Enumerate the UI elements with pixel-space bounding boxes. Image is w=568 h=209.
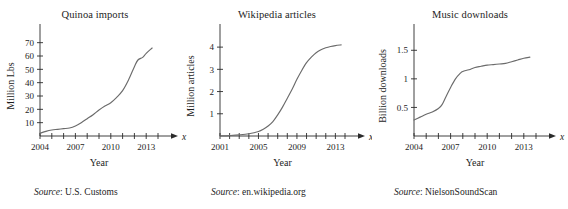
svg-text:70: 70	[25, 38, 35, 48]
chart-source: Source: en.wikipedia.org	[211, 187, 306, 197]
svg-text:1: 1	[404, 74, 409, 84]
svg-text:2013: 2013	[326, 142, 345, 152]
chart-panel-wikipedia-articles: Wikipedia articles xy2001200520092013123…	[182, 0, 372, 209]
source-value: en.wikipedia.org	[242, 187, 306, 197]
chart-title: Music downloads	[372, 9, 568, 20]
chart-title: Wikipedia articles	[182, 9, 372, 20]
chart-panel-music-downloads: Music downloads xy20042007201020130.511.…	[372, 0, 568, 209]
data-curve	[40, 48, 152, 133]
svg-text:10: 10	[25, 118, 35, 128]
svg-text:Million Lbs: Million Lbs	[5, 62, 16, 110]
svg-text:Year: Year	[90, 157, 109, 168]
svg-text:2: 2	[210, 87, 215, 97]
svg-text:0.5: 0.5	[397, 103, 409, 113]
svg-text:20: 20	[25, 105, 35, 115]
svg-text:40: 40	[25, 78, 35, 88]
data-curve	[220, 45, 341, 136]
svg-text:2005: 2005	[249, 142, 268, 152]
svg-text:Year: Year	[466, 157, 485, 168]
svg-text:Billion downloads: Billion downloads	[377, 49, 388, 123]
chart-panel-quinoa-imports: Quinoa imports xy20042007201020131020304…	[0, 0, 190, 209]
three-chart-figure: Quinoa imports xy20042007201020131020304…	[0, 0, 568, 209]
chart-title: Quinoa imports	[0, 9, 190, 20]
svg-text:3: 3	[210, 65, 215, 75]
chart-plot-area: xy20012005200920131234YearMillion articl…	[182, 24, 372, 174]
source-value: NielsonSoundScan	[425, 187, 497, 197]
svg-text:1.5: 1.5	[397, 45, 409, 55]
svg-text:2013: 2013	[515, 142, 534, 152]
svg-text:30: 30	[25, 91, 35, 101]
svg-text:Year: Year	[273, 157, 292, 168]
svg-text:x: x	[559, 132, 565, 142]
svg-text:4: 4	[210, 42, 215, 52]
source-label: Source	[34, 187, 60, 197]
svg-text:2007: 2007	[442, 142, 461, 152]
svg-text:2010: 2010	[478, 142, 497, 152]
svg-text:2004: 2004	[405, 142, 424, 152]
svg-text:2001: 2001	[211, 142, 229, 152]
svg-text:50: 50	[25, 65, 35, 75]
svg-text:1: 1	[210, 109, 215, 119]
source-label: Source	[394, 187, 420, 197]
svg-text:Million articles: Million articles	[185, 55, 196, 116]
svg-text:2010: 2010	[102, 142, 121, 152]
chart-plot-area: xy200420072010201310203040506070YearMill…	[0, 24, 190, 174]
chart-source: Source: U.S. Customs	[34, 187, 118, 197]
svg-text:60: 60	[25, 51, 35, 61]
source-label: Source	[211, 187, 237, 197]
svg-text:2009: 2009	[288, 142, 307, 152]
chart-plot-area: xy20042007201020130.511.5YearBillion dow…	[372, 24, 568, 174]
svg-text:2004: 2004	[31, 142, 50, 152]
chart-source: Source: NielsonSoundScan	[394, 187, 497, 197]
source-value: U.S. Customs	[65, 187, 118, 197]
svg-text:2013: 2013	[137, 142, 156, 152]
data-curve	[414, 57, 530, 120]
svg-text:2007: 2007	[66, 142, 85, 152]
